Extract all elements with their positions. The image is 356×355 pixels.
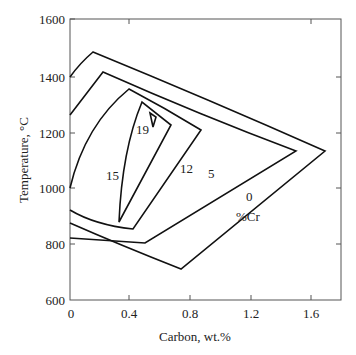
- y-tick-label: 600: [46, 293, 66, 308]
- curve-15-cr: [119, 102, 171, 222]
- y-tick-label: 1200: [39, 126, 65, 141]
- plot-frame: [70, 19, 341, 300]
- x-axis-title: Carbon, wt.%: [159, 329, 231, 344]
- x-tick-label: 1.6: [303, 306, 320, 321]
- y-tick-label: 1400: [39, 70, 65, 85]
- y-tick-label: 800: [46, 237, 66, 252]
- x-tick-label: 1.2: [243, 306, 259, 321]
- y-tick-label: 1600: [39, 12, 65, 27]
- curve-label-12: 12: [180, 161, 193, 176]
- curve-19-cr: [150, 113, 156, 127]
- y-axis-title: Temperature, °C: [16, 117, 31, 203]
- curve-label-0: 0: [246, 189, 253, 204]
- cr-unit-label: %Cr: [236, 209, 261, 224]
- curve-label-15: 15: [106, 168, 119, 183]
- phase-diagram-chart: 1600 1400 1200 1000 800 600 0 0.4 0.8 1.…: [0, 0, 356, 355]
- y-axis: 1600 1400 1200 1000 800 600: [39, 12, 341, 308]
- curve-12-cr: [70, 89, 201, 229]
- curve-label-5: 5: [208, 166, 215, 181]
- curve-label-19: 19: [136, 122, 149, 137]
- x-tick-label: 0.4: [121, 306, 138, 321]
- x-tick-label: 0.8: [182, 306, 198, 321]
- y-tick-label: 1000: [39, 181, 65, 196]
- x-tick-label: 0: [68, 306, 75, 321]
- curve-0-cr: [70, 52, 325, 269]
